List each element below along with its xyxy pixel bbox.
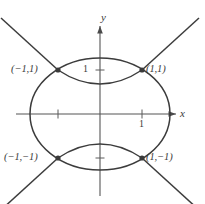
point-label-bottom-left: (−1,−1) — [4, 152, 38, 163]
y-axis-arrowhead — [97, 26, 103, 34]
math-figure: (−1,1) (1,1) (−1,−1) (1,−1) y x 1 1 — [0, 0, 205, 204]
node-point-bottom-right — [139, 155, 144, 160]
y-axis-label: y — [101, 12, 106, 23]
node-point-top-right — [139, 67, 144, 72]
plot-canvas — [0, 0, 205, 204]
x-tick-label-one: 1 — [139, 119, 144, 129]
point-label-bottom-right: (1,−1) — [146, 152, 173, 163]
point-label-top-right: (1,1) — [146, 64, 166, 75]
point-label-top-left: (−1,1) — [11, 64, 38, 75]
node-point-bottom-left — [55, 155, 60, 160]
ray-lower-right — [142, 158, 199, 204]
y-tick-label-one: 1 — [83, 64, 88, 74]
node-point-top-left — [55, 67, 60, 72]
ray-lower-left — [1, 158, 58, 204]
x-axis-label: x — [180, 108, 185, 119]
